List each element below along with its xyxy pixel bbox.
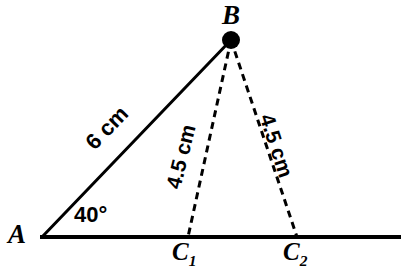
vertex-label-c2: C2 (283, 239, 307, 269)
vertex-label-a: A (8, 221, 26, 248)
vertex-label-b: B (222, 2, 240, 29)
vertex-label-c1: C1 (172, 239, 196, 269)
vertex-label-c1-subscript: 1 (189, 252, 197, 269)
vertex-marker-b (222, 31, 240, 49)
diagram-canvas (0, 0, 410, 275)
vertex-label-c1-base: C (172, 238, 189, 265)
vertex-label-c2-base: C (283, 238, 300, 265)
geometry-diagram: A B C1 C2 40° 6 cm 4.5 cm 4.5 cm (0, 0, 410, 275)
vertex-label-c2-subscript: 2 (300, 252, 308, 269)
segment-ab-line (42, 40, 231, 237)
angle-label-a: 40° (74, 204, 107, 226)
